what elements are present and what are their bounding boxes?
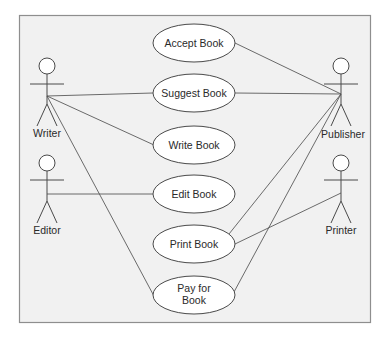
use-case-pay-for-book: Pay for Book: [153, 276, 235, 314]
use-case-edit-book: Edit Book: [153, 175, 235, 213]
actor-label: Printer: [326, 224, 357, 236]
use-case-label: Accept Book: [165, 37, 225, 49]
use-case-label: Suggest Book: [161, 87, 227, 99]
use-case-label: Print Book: [170, 238, 219, 250]
use-case-write-book: Write Book: [153, 126, 235, 164]
actor-label: Editor: [33, 224, 61, 236]
use-case-suggest-book: Suggest Book: [153, 74, 235, 112]
use-case-label-line-2: Book: [182, 294, 207, 306]
actor-label: Publisher: [321, 128, 365, 140]
use-case-label: Write Book: [168, 139, 220, 151]
use-case-accept-book: Accept Book: [153, 24, 235, 62]
use-case-diagram: Accept Book Suggest Book Write Book Edit…: [0, 0, 388, 339]
use-case-print-book: Print Book: [153, 225, 235, 263]
use-case-label: Edit Book: [172, 188, 218, 200]
use-case-label-line-1: Pay for: [177, 282, 211, 294]
actor-label: Writer: [33, 127, 61, 139]
